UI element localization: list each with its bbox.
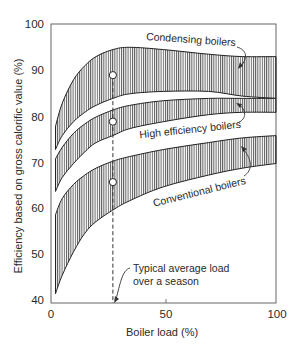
ytick-100: 100: [25, 18, 44, 30]
arrow-typical-load: [116, 268, 130, 299]
ytick-90: 90: [31, 64, 44, 76]
efficiency-chart: 100 90 80 70 60 50 40 0 50 100 Boiler lo…: [0, 0, 299, 348]
xtick-50: 50: [160, 308, 173, 320]
marker-condensing-boilers: [109, 72, 116, 79]
marker-conventional-boilers: [109, 179, 116, 186]
ytick-40: 40: [31, 294, 44, 306]
xtick-0: 0: [48, 308, 54, 320]
x-axis-label: Boiler load (%): [126, 326, 198, 338]
y-axis-label: Efficiency based on gross calorific valu…: [12, 58, 24, 273]
label-condensing: Condensing boilers: [146, 30, 237, 48]
xtick-100: 100: [267, 308, 286, 320]
ytick-80: 80: [31, 111, 44, 123]
marker-high-efficiency-boilers: [109, 118, 116, 125]
label-typical-load-1: Typical average load: [133, 262, 229, 274]
label-typical-load-2: over a season: [133, 275, 199, 287]
ytick-70: 70: [31, 157, 44, 169]
efficiency-bands: [56, 47, 277, 293]
ytick-50: 50: [31, 248, 44, 260]
ytick-60: 60: [31, 202, 44, 214]
